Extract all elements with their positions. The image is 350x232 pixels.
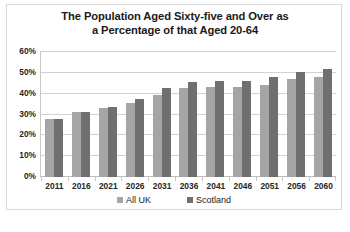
bar-group: [202, 52, 229, 177]
legend-item-scotland[interactable]: Scotland: [187, 195, 231, 205]
bar-scotland[interactable]: [296, 72, 305, 177]
y-axis-tick-label: 50%: [19, 67, 36, 77]
x-axis-tick-label: 2011: [41, 181, 68, 191]
x-axis-tick-label: 2041: [202, 181, 229, 191]
legend-swatch-icon: [187, 197, 193, 203]
bar-group: [309, 52, 336, 177]
bar-scotland[interactable]: [215, 81, 224, 177]
bar-all-uk[interactable]: [260, 85, 269, 177]
bar-scotland[interactable]: [54, 119, 63, 177]
chart-title-line-1: The Population Aged Sixty-five and Over …: [21, 10, 329, 24]
bar-group: [229, 52, 256, 177]
x-axis-tick-label: 2031: [149, 181, 176, 191]
bar-scotland[interactable]: [242, 81, 251, 177]
bar-all-uk[interactable]: [314, 77, 323, 177]
y-axis-tick-label: 60%: [19, 46, 36, 56]
bar-group: [68, 52, 95, 177]
y-axis-tick-label: 40%: [19, 88, 36, 98]
legend-swatch-icon: [117, 197, 123, 203]
bar-all-uk[interactable]: [99, 108, 108, 177]
legend-label: Scotland: [196, 195, 231, 205]
y-axis-tick-label: 10%: [19, 150, 36, 160]
legend-item-all-uk[interactable]: All UK: [117, 195, 151, 205]
bar-scotland[interactable]: [323, 69, 332, 177]
bar-group: [121, 52, 148, 177]
bar-all-uk[interactable]: [153, 95, 162, 177]
bar-all-uk[interactable]: [179, 88, 188, 177]
bar-scotland[interactable]: [135, 99, 144, 177]
legend-label: All UK: [126, 195, 151, 205]
bar-group: [282, 52, 309, 177]
x-axis-tick-label: 2021: [95, 181, 122, 191]
x-axis-tick-label: 2046: [229, 181, 256, 191]
y-axis-tick-label: 30%: [19, 109, 36, 119]
plot-area: 60%50%40%30%20%10%0%: [40, 52, 336, 177]
bar-all-uk[interactable]: [233, 87, 242, 177]
x-axis-tick-label: 2026: [122, 181, 149, 191]
bar-group: [256, 52, 283, 177]
x-axis-tick-label: 2036: [176, 181, 203, 191]
bar-all-uk[interactable]: [45, 119, 54, 177]
bar-scotland[interactable]: [188, 82, 197, 177]
bar-all-uk[interactable]: [126, 103, 135, 177]
bar-group: [175, 52, 202, 177]
bar-group: [41, 52, 68, 177]
x-axis-tick-label: 2056: [283, 181, 310, 191]
bar-all-uk[interactable]: [72, 112, 81, 177]
bar-series-layer: [41, 52, 336, 177]
x-axis-labels: 2011201620212026203120362041204620512056…: [41, 181, 337, 191]
x-axis-tick-label: 2016: [68, 181, 95, 191]
y-axis-tick-label: 0%: [24, 171, 36, 181]
bar-all-uk[interactable]: [206, 87, 215, 177]
bar-scotland[interactable]: [81, 112, 90, 177]
x-axis-tick-label: 2060: [310, 181, 337, 191]
y-axis-tick-label: 20%: [19, 129, 36, 139]
bar-all-uk[interactable]: [287, 79, 296, 177]
bar-scotland[interactable]: [162, 88, 171, 177]
bar-scotland[interactable]: [108, 107, 117, 177]
chart-title-line-2: a Percentage of that Aged 20-64: [21, 24, 329, 38]
chart-title: The Population Aged Sixty-five and Over …: [21, 10, 329, 37]
bar-group: [148, 52, 175, 177]
x-axis-tick-label: 2051: [256, 181, 283, 191]
chart-container: The Population Aged Sixty-five and Over …: [6, 4, 342, 210]
bar-group: [95, 52, 122, 177]
chart-legend: All UKScotland: [7, 195, 341, 205]
bar-scotland[interactable]: [269, 77, 278, 177]
